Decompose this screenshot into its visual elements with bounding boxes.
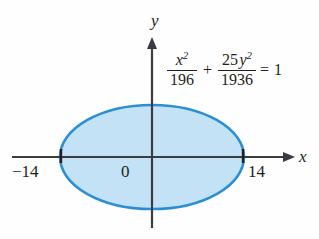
y-axis-label: y (151, 12, 159, 29)
x-axis-arrowhead (283, 152, 295, 162)
equation-denominator-x: 196 (167, 71, 197, 89)
ellipse-plot (0, 0, 319, 239)
y-axis-arrowhead (147, 37, 157, 49)
equation-numerator-x: x2 (173, 52, 192, 70)
equation-denominator-y: 1936 (218, 71, 256, 89)
ellipse-figure: y x −14 14 0 x2 196 + 25y2 1936 = 1 (0, 0, 319, 239)
equation-fraction-x: x2 196 (167, 52, 197, 89)
equation-coefficient-y: 25 (222, 51, 240, 68)
equation-fraction-y: 25y2 1936 (218, 52, 256, 89)
equation-plus-operator: + (198, 61, 217, 79)
equation-exponent-y: 2 (247, 49, 252, 61)
equation-exponent-x: 2 (183, 49, 188, 61)
equation-right-side: 1 (273, 61, 282, 79)
equation-variable-x: x (176, 51, 183, 68)
equation-variable-y: y (240, 51, 247, 68)
equation-equals-operator: = (257, 61, 273, 79)
ellipse-equation: x2 196 + 25y2 1936 = 1 (166, 52, 282, 89)
tick-label-x-right: 14 (248, 163, 265, 180)
origin-label: 0 (121, 163, 130, 180)
tick-label-x-left: −14 (12, 163, 39, 180)
equation-numerator-y: 25y2 (219, 52, 255, 70)
x-axis-label: x (299, 148, 307, 165)
